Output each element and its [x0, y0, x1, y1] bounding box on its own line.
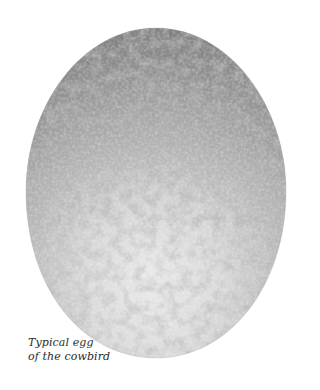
egg-icon [24, 26, 288, 360]
caption: Typical egg of the cowbird [28, 336, 110, 364]
caption-line-2: of the cowbird [28, 350, 110, 364]
egg-illustration [24, 26, 288, 360]
caption-line-1: Typical egg [28, 336, 110, 350]
